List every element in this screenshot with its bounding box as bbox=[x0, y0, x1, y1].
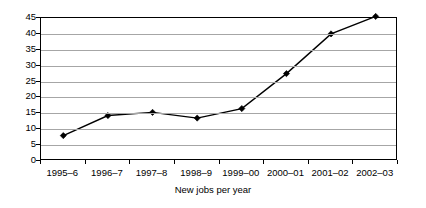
y-axis-tick-label: 30 bbox=[2, 60, 36, 70]
x-axis-tick-label: 1996–7 bbox=[85, 167, 130, 178]
gridline bbox=[41, 113, 396, 114]
data-point-marker bbox=[60, 132, 66, 138]
y-axis-tick-label: 25 bbox=[2, 76, 36, 86]
y-axis-tick-label: 5 bbox=[2, 139, 36, 149]
y-axis-tick-mark bbox=[36, 96, 40, 97]
x-axis-tick-label: 1995–6 bbox=[40, 167, 85, 178]
y-axis-tick-label: 35 bbox=[2, 44, 36, 54]
data-point-marker bbox=[373, 13, 379, 19]
y-axis-tick-mark bbox=[36, 17, 40, 18]
y-axis-tick-mark bbox=[36, 33, 40, 34]
x-axis-tick-label: 1997–8 bbox=[129, 167, 174, 178]
gridline bbox=[41, 145, 396, 146]
y-axis-tick-label: 45 bbox=[2, 12, 36, 22]
x-axis-tick-mark bbox=[308, 160, 309, 164]
gridline bbox=[41, 97, 396, 98]
y-axis-tick-label: 20 bbox=[2, 91, 36, 101]
y-axis-tick-mark bbox=[36, 144, 40, 145]
y-axis-tick-mark bbox=[36, 128, 40, 129]
gridline bbox=[41, 129, 396, 130]
y-axis-tick-label: 0 bbox=[2, 155, 36, 165]
x-axis-tick-mark bbox=[40, 160, 41, 164]
x-axis-tick-mark bbox=[219, 160, 220, 164]
gridline bbox=[41, 50, 396, 51]
x-axis-tick-mark bbox=[174, 160, 175, 164]
y-axis-tick-label: 10 bbox=[2, 123, 36, 133]
y-axis-tick-mark bbox=[36, 49, 40, 50]
y-axis-tick-mark bbox=[36, 112, 40, 113]
x-axis-label: New jobs per year bbox=[0, 184, 426, 195]
x-axis-tick-mark bbox=[352, 160, 353, 164]
x-axis-tick-mark bbox=[85, 160, 86, 164]
y-axis-tick-mark bbox=[36, 81, 40, 82]
y-axis-tick-label: 15 bbox=[2, 107, 36, 117]
plot-area bbox=[40, 17, 397, 160]
x-axis-tick-label: 2001–02 bbox=[308, 167, 353, 178]
x-axis-tick-label: 2002–03 bbox=[352, 167, 397, 178]
series-layer bbox=[41, 18, 398, 161]
gridline bbox=[41, 66, 396, 67]
data-point-marker bbox=[194, 115, 200, 121]
line-chart: 051015202530354045 New jobs per year 199… bbox=[0, 0, 426, 208]
y-axis: 051015202530354045 bbox=[0, 0, 36, 208]
y-axis-tick-mark bbox=[36, 65, 40, 66]
x-axis-tick-mark bbox=[129, 160, 130, 164]
gridline bbox=[41, 34, 396, 35]
x-axis-tick-label: 2000–01 bbox=[263, 167, 308, 178]
x-axis-tick-mark bbox=[397, 160, 398, 164]
x-axis-tick-mark bbox=[263, 160, 264, 164]
y-axis-tick-label: 40 bbox=[2, 28, 36, 38]
gridline bbox=[41, 82, 396, 83]
x-axis-tick-label: 1999–00 bbox=[219, 167, 264, 178]
x-axis-tick-label: 1998–9 bbox=[174, 167, 219, 178]
